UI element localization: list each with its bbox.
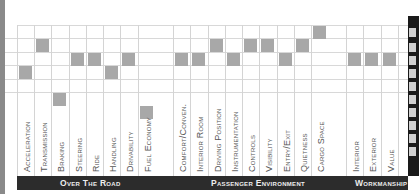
rating-square [105,66,118,79]
grid-line [5,79,408,80]
column-label: Quietness [294,88,311,172]
right-edge-tab [408,16,419,176]
column-label-text: Comfort/Conven. [178,104,188,172]
column-label-text: Controls [247,135,257,172]
group-band-label: Over The Road [60,178,121,188]
rating-square [348,53,361,66]
column-label: Braking [51,88,68,172]
tab-mark [409,121,416,130]
column-label: Instrumentation [225,88,242,172]
rating-square [71,53,84,66]
column-label: Fuel Economy [138,88,155,172]
column-label: Visibility [259,88,276,172]
grid-column-line [398,25,399,176]
column-label: Transmission [34,88,51,172]
rating-square [19,66,32,79]
rating-square [279,53,292,66]
column-label-text: Transmission [39,122,49,172]
rating-square [383,53,396,66]
column-label: Exterior [363,88,380,172]
column-label-text: Interior [351,141,361,172]
tab-mark [409,108,416,117]
column-label: Interior Room [190,88,207,172]
tab-mark [409,95,416,104]
column-label-text: Interior Room [195,117,205,172]
column-label-text: Entry/Exit [282,130,292,172]
tab-mark [409,82,416,91]
column-label: Controls [242,88,259,172]
tab-mark [409,147,416,156]
column-label-text: Fuel Economy [143,117,153,172]
rating-square [261,39,274,52]
column-label-text: Quietness [299,133,309,172]
grid-line [17,25,408,26]
column-label-text: Instrumentation [230,111,240,172]
column-label: Entry/Exit [277,88,294,172]
column-label-text: Steering [74,138,84,172]
rating-square [296,39,309,52]
column-label: Handling [103,88,120,172]
rating-square [244,39,257,52]
column-label: Steering [69,88,86,172]
column-label-text: Ride [91,155,101,172]
column-label-text: Braking [56,142,66,172]
column-label-text: Cargo Space [316,121,326,172]
column-label-text: Drivability [125,131,135,172]
rating-square [210,39,223,52]
rating-square [313,26,326,39]
tab-mark [409,43,416,52]
column-label-text: Exterior [368,138,378,172]
grid-line [5,38,408,39]
column-label: Value [381,88,398,172]
rating-square [365,53,378,66]
column-label: Driving Position [208,88,225,172]
rating-square [175,53,188,66]
column-label: Interior [346,88,363,172]
column-label: Cargo Space [311,88,328,172]
tab-mark [409,56,416,65]
group-band-label: Workmanship [355,178,407,188]
rating-square [88,53,101,66]
tab-mark [409,134,416,143]
group-band-label: Passenger Environment [211,178,305,188]
column-label-text: Acceleration [22,121,32,172]
tab-mark [409,69,416,78]
rating-square [36,39,49,52]
column-label: Ride [86,88,103,172]
rating-square [227,53,240,66]
rating-square [122,53,135,66]
column-label: Comfort/Conven. [173,88,190,172]
column-label: Acceleration [17,88,34,172]
column-label-text: Visibility [264,138,274,172]
column-label: Drivability [120,88,137,172]
column-label-text: Value [386,149,396,172]
column-label-text: Handling [108,137,118,172]
column-label-text: Driving Position [213,108,223,172]
tab-mark [409,28,416,37]
rating-square [192,53,205,66]
